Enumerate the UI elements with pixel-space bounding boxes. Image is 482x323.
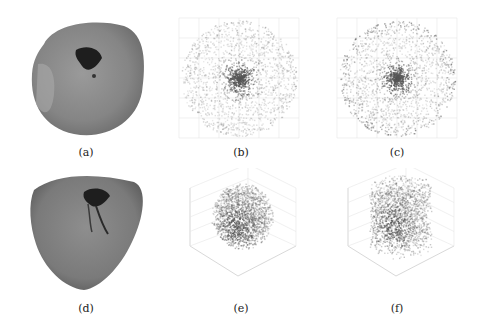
caption-e: (e) — [221, 302, 261, 315]
scatter-plot-c — [331, 14, 463, 142]
scatter-plot-b — [173, 14, 305, 142]
panel-b-scatter — [173, 14, 305, 142]
panel-a-image — [24, 14, 152, 142]
caption-f: (f) — [377, 302, 417, 315]
caption-b: (b) — [221, 146, 261, 159]
panel-e-scatter3d — [170, 168, 310, 296]
caption-c: (c) — [377, 146, 417, 159]
tissue-photo-a — [24, 14, 152, 142]
tissue-photo-d — [24, 168, 152, 296]
panel-f-scatter3d — [328, 168, 468, 296]
caption-a: (a) — [66, 146, 106, 159]
panel-d-image — [24, 168, 152, 296]
scatter3d-plot-f — [328, 168, 468, 296]
panel-c-scatter — [331, 14, 463, 142]
scatter3d-plot-e — [170, 168, 310, 296]
caption-d: (d) — [66, 302, 106, 315]
